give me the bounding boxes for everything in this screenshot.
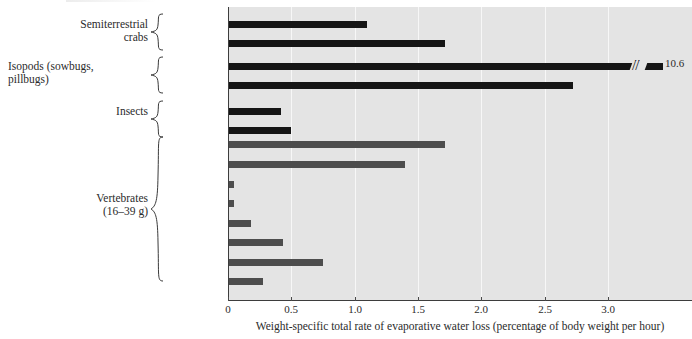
gridline-0_5	[291, 7, 292, 300]
gridline-1_5	[418, 7, 419, 300]
x-axis-caption: Weight-specific total rate of evaporativ…	[228, 320, 692, 332]
bar-lab-mouse	[228, 239, 283, 246]
bar-migratory-locust	[228, 108, 281, 115]
bar-tsetse-fly	[228, 127, 291, 134]
xtick-label-2_5: 2.5	[525, 303, 565, 315]
x-axis-line	[228, 300, 692, 301]
xtick-label-1_0: 1.0	[335, 303, 375, 315]
bar-brown-towhee	[228, 278, 263, 285]
plot-area: // //	[228, 7, 692, 300]
xtick-1_0	[355, 297, 356, 301]
scan-artifact	[66, 0, 156, 2]
group-label-semiterrestrial-crabs: Semiterrestrial crabs	[10, 18, 148, 44]
bar-desert-kangaroo-rat	[228, 220, 251, 227]
brace-insects	[150, 100, 164, 138]
xtick-label-3_0: 3.0	[588, 303, 628, 315]
bar-semiaquatic-frog	[228, 141, 445, 148]
bar-value-intertidal-isopod: 10.6	[665, 57, 684, 69]
xtick-1_5	[418, 297, 419, 301]
bar-house-finch	[228, 259, 323, 266]
bar-pillbug	[228, 82, 573, 89]
xtick-3_0	[608, 297, 609, 301]
group-label-vertebrates: Vertebrates (16–39 g)	[10, 192, 148, 218]
gridline-1_0	[355, 7, 356, 300]
gridline-2_5	[545, 7, 546, 300]
evaporative-water-loss-chart: Semiterrestrial crabs Isopods (sowbugs, …	[0, 0, 692, 339]
bar-intertidal-isopod	[228, 63, 663, 70]
axis-break-glyph: //	[632, 57, 638, 74]
brace-isopods	[150, 56, 164, 94]
brace-vertebrates	[150, 136, 164, 282]
xtick-label-0_5: 0.5	[271, 303, 311, 315]
bar-ghost-crab	[228, 21, 367, 28]
xtick-label-0: 0	[208, 303, 248, 315]
brace-semiterrestrial-crabs	[150, 13, 164, 51]
xtick-2_5	[545, 297, 546, 301]
y-axis-line	[228, 7, 229, 300]
gridline-3_0	[608, 7, 609, 300]
xtick-0_5	[291, 297, 292, 301]
bar-fiddler-crab	[228, 40, 445, 47]
xtick-0	[228, 297, 229, 301]
xtick-label-1_5: 1.5	[398, 303, 438, 315]
xtick-label-2_0: 2.0	[461, 303, 501, 315]
group-label-insects: Insects	[10, 105, 148, 118]
bar-desert-spadefoot-toad	[228, 161, 405, 168]
group-label-isopods: Isopods (sowbugs, pillbugs)	[8, 60, 158, 86]
gridline-2_0	[481, 7, 482, 300]
xtick-2_0	[481, 297, 482, 301]
